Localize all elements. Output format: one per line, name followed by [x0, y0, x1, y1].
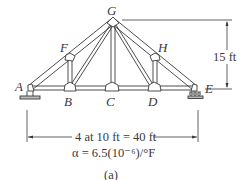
gusset-D [148, 82, 161, 91]
pin-support-A [20, 91, 40, 99]
node-label-D: D [148, 95, 157, 108]
node-label-G: G [107, 4, 116, 17]
node-label-A: A [15, 80, 23, 93]
truss-figure: A B C D E F G H 15 ft 4 at 10 ft = 40 ft… [0, 0, 248, 180]
node-label-B: B [64, 95, 72, 108]
span-dimension-label: 4 at 10 ft = 40 ft [75, 131, 156, 144]
node-label-H: H [158, 41, 167, 54]
gusset-E [191, 84, 197, 91]
node-label-F: F [60, 41, 68, 54]
roller-support-E [188, 92, 203, 99]
gusset-G [107, 17, 119, 27]
height-dimension-label: 15 ft [213, 51, 236, 64]
member-GC [111, 24, 115, 86]
figure-caption: (a) [104, 169, 118, 180]
member-BG [70, 25, 112, 86]
thermal-coefficient-label: α = 6.5(10⁻⁶)/°F [72, 147, 155, 160]
gusset-C [105, 82, 119, 91]
gusset-B [64, 82, 76, 91]
node-label-E: E [205, 82, 213, 95]
node-label-C: C [106, 95, 115, 108]
gusset-A [28, 84, 34, 91]
